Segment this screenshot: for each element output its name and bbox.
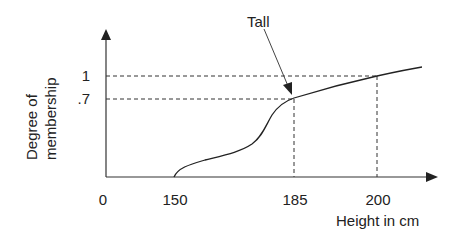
x-axis <box>106 172 438 182</box>
y-axis-label-line2: membership <box>42 77 59 160</box>
x-axis-label: Height in cm <box>336 212 419 229</box>
annotation-label: Tall <box>247 13 270 30</box>
annotation-arrowhead-icon <box>283 82 292 95</box>
x-tick-0: 0 <box>99 191 107 208</box>
y-tick-1: 1 <box>82 67 90 84</box>
guide-lines <box>106 76 377 177</box>
y-tick-07: .7 <box>77 90 90 107</box>
x-tick-185: 185 <box>282 191 307 208</box>
y-axis-label-line1: Degree of <box>23 93 40 160</box>
x-axis-arrow-icon <box>426 172 438 182</box>
x-tick-150: 150 <box>162 191 187 208</box>
tall-annotation-arrow <box>264 29 292 95</box>
membership-function-diagram: Tall 1 .7 0 150 185 200 Height in cm Deg… <box>0 0 460 248</box>
tall-membership-curve <box>174 67 422 177</box>
x-tick-200: 200 <box>365 191 390 208</box>
y-axis-label: Degree of membership <box>23 77 59 160</box>
y-axis-arrow-icon <box>101 29 111 40</box>
y-axis <box>101 29 111 177</box>
